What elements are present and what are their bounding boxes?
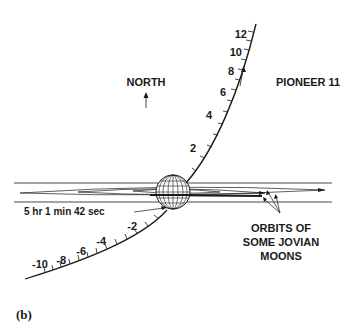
closest-approach-time: 5 hr 1 min 42 sec — [24, 206, 105, 217]
tick-label: 12 — [235, 28, 247, 40]
tick-label: 2 — [190, 142, 196, 154]
tick-label: -4 — [96, 235, 107, 247]
inbound-time-labels: -2 -4 -6 -8 -10 — [32, 220, 137, 270]
figure-caption: (b) — [16, 307, 32, 322]
outbound-time-labels: 2 4 6 8 10 12 — [190, 28, 247, 154]
tick-label: 8 — [228, 65, 234, 77]
tick-label: 4 — [206, 109, 213, 121]
tick-label: -8 — [56, 254, 66, 266]
jupiter-flyby-diagram: 2 4 6 8 10 12 -2 -4 -6 -8 -10 NORTH NORT… — [0, 0, 352, 322]
tick-label: -2 — [127, 220, 137, 232]
pioneer-trajectory — [25, 24, 256, 279]
orbits-label-line1: ORBITS OF — [251, 222, 311, 234]
tick-label: -6 — [76, 245, 86, 257]
north-arrow-icon — [144, 92, 149, 108]
tick-label: 10 — [230, 46, 242, 58]
tick-label: -10 — [32, 258, 48, 270]
orbits-label-line2: SOME JOVIAN — [243, 236, 319, 248]
orbits-leader-arrows — [263, 190, 280, 213]
orbits-label-line3: MOONS — [260, 250, 302, 262]
jupiter-globe-icon — [155, 175, 191, 209]
tick-label: 6 — [220, 86, 226, 98]
closest-approach-leader — [134, 206, 167, 212]
north-label: NORTH — [126, 76, 165, 88]
orbits-label: ORBITS OF SOME JOVIAN MOONS — [243, 222, 319, 262]
spacecraft-label: PIONEER 11 — [276, 76, 340, 88]
